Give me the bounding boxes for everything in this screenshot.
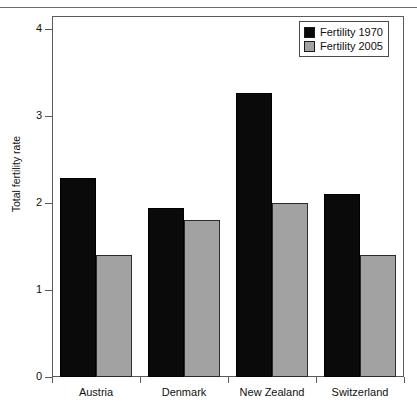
bar-denmark-fertility-2005 [184,220,220,377]
chart-legend: Fertility 1970 Fertility 2005 [299,21,389,57]
plot-area [52,16,404,377]
y-axis-title: Total fertility rate [10,114,22,234]
legend-label-fertility-2005: Fertility 2005 [320,41,383,52]
bar-new-zealand-fertility-2005 [272,203,308,377]
y-axis-tick-0 [45,377,52,378]
bar-austria-fertility-2005 [96,255,132,377]
legend-item-fertility-1970: Fertility 1970 [304,25,383,39]
x-axis-tick-left-edge [52,377,53,383]
x-axis-tick-3 [316,377,317,383]
legend-swatch-grey-square [304,41,315,52]
y-axis-label-4: 4 [22,23,42,34]
bar-denmark-fertility-1970 [148,208,184,377]
y-axis-label-2: 2 [22,197,42,208]
x-axis-tick-right-edge [404,377,405,383]
y-axis-label-3: 3 [22,110,42,121]
y-axis-label-1: 1 [22,284,42,295]
bar-austria-fertility-1970 [60,178,96,377]
bar-new-zealand-fertility-1970 [236,93,272,377]
x-axis-tick-2 [228,377,229,383]
bar-switzerland-fertility-1970 [324,194,360,377]
legend-swatch-black-square [304,27,315,38]
y-axis-label-0: 0 [22,371,42,382]
y-axis-tick-1 [45,290,52,291]
y-axis-tick-3 [45,116,52,117]
y-axis-tick-2 [45,203,52,204]
fertility-bar-chart-figure: 4 3 2 1 0 Total fertility rate Austria D… [0,0,417,408]
bar-switzerland-fertility-2005 [360,255,396,377]
x-axis-label-switzerland: Switzerland [305,386,415,398]
y-axis-tick-4 [45,29,52,30]
legend-label-fertility-1970: Fertility 1970 [320,27,383,38]
top-divider-rule [0,7,417,8]
legend-item-fertility-2005: Fertility 2005 [304,39,383,53]
x-axis-tick-1 [140,377,141,383]
